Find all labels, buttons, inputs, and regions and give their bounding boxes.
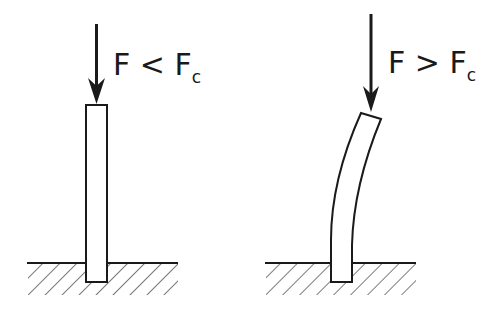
buckling-diagram: F < Fc F > Fc bbox=[0, 0, 477, 309]
column-buckled bbox=[331, 113, 381, 282]
force-arrow-left bbox=[88, 24, 105, 104]
label-f-greater-than-fc: F > Fc bbox=[388, 45, 476, 85]
panel-stable: F < Fc bbox=[27, 24, 201, 295]
label-f-less-than-fc: F < Fc bbox=[113, 47, 201, 87]
column-straight bbox=[86, 105, 107, 282]
force-arrow-right bbox=[363, 14, 379, 112]
panel-buckled: F > Fc bbox=[265, 14, 476, 295]
